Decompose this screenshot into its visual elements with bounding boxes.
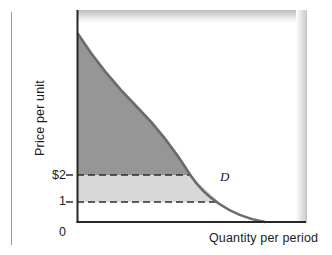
demand-curve-figure: Price per unit Quantity per period $2 1 …: [0, 0, 332, 255]
region-consumer-surplus-at-2: [78, 34, 191, 182]
origin-label: 0: [24, 225, 66, 239]
y-axis-title: Price per unit: [33, 66, 47, 171]
demand-curve-label: D: [220, 169, 229, 185]
x-axis-title: Quantity per period: [209, 231, 318, 245]
plot-canvas: [0, 0, 332, 255]
y-tick-label-1: 1: [24, 194, 66, 208]
y-tick-label-2: $2: [24, 168, 66, 182]
